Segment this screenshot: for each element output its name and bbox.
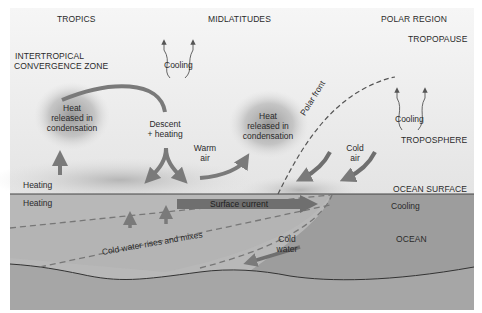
cold-water-line2: water <box>270 244 304 254</box>
surface-current-label: Surface current <box>210 199 268 209</box>
cooling-polar-label: Cooling <box>395 114 424 124</box>
cold-air-line2: air <box>340 153 370 163</box>
heating-atmosphere-label: Heating <box>23 180 52 190</box>
descent-line1: Descent <box>140 119 190 129</box>
ocean-surface-label: OCEAN SURFACE <box>393 184 467 194</box>
troposphere-label: TROPOSPHERE <box>401 135 467 145</box>
cooling-ocean-label: Cooling <box>391 201 420 211</box>
heat-tropics-line3: condensation <box>40 123 104 133</box>
heat-midlat-line1: Heat <box>236 111 300 121</box>
itcz-label-line1: INTERTROPICAL <box>15 51 84 61</box>
diagram-graphics <box>0 0 482 313</box>
warm-air-line2: air <box>190 153 220 163</box>
region-tropics-label: TROPICS <box>57 14 95 24</box>
heat-tropics-line2: released in <box>40 113 104 123</box>
heat-midlat-line3: condensation <box>236 131 300 141</box>
atmosphere-ocean-circulation-diagram: TROPICS MIDLATITUDES POLAR REGION TROPOP… <box>0 0 482 313</box>
heat-midlat-line2: released in <box>236 121 300 131</box>
heating-ocean-label: Heating <box>23 198 52 208</box>
cooling-midlatitudes-label: Cooling <box>164 60 193 70</box>
itcz-label-line2: CONVERGENCE ZONE <box>14 61 108 71</box>
region-polar-label: POLAR REGION <box>381 14 447 24</box>
tropopause-label: TROPOPAUSE <box>408 34 467 44</box>
cold-air-line1: Cold <box>340 143 370 153</box>
heat-tropics-line1: Heat <box>40 103 104 113</box>
region-midlatitudes-label: MIDLATITUDES <box>208 14 271 24</box>
descent-line2: + heating <box>140 129 190 139</box>
ocean-label: OCEAN <box>396 234 427 244</box>
cold-water-line1: Cold <box>270 234 304 244</box>
warm-air-line1: Warm <box>190 143 220 153</box>
